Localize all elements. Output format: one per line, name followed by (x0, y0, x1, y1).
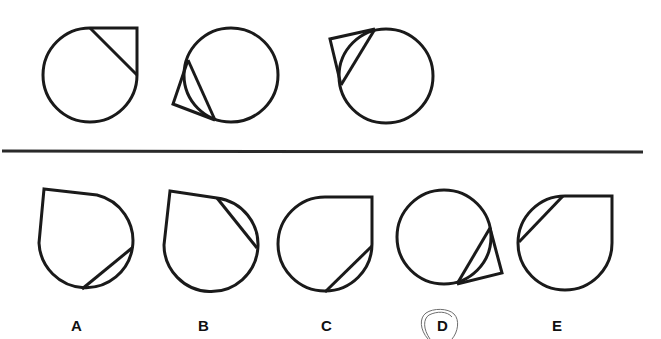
option-b-label[interactable]: B (198, 317, 209, 334)
puzzle-canvas: A B C D E (0, 0, 661, 339)
question-figure-1 (43, 28, 137, 122)
divider-line (2, 151, 643, 152)
option-d-figure[interactable] (397, 190, 502, 284)
question-figure-2 (173, 28, 278, 122)
option-c-figure[interactable] (278, 197, 372, 292)
option-a-label[interactable]: A (71, 317, 82, 334)
option-e-figure[interactable] (518, 196, 612, 290)
option-e-label[interactable]: E (552, 317, 562, 334)
question-figure-3 (330, 29, 433, 123)
option-c-label[interactable]: C (321, 317, 332, 334)
option-a-figure[interactable] (39, 189, 133, 289)
option-b-figure[interactable] (164, 191, 258, 292)
option-d-label[interactable]: D (437, 317, 448, 334)
